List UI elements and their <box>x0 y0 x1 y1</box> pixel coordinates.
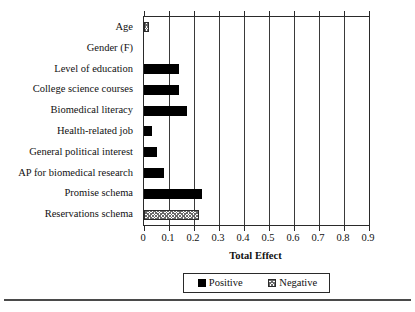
category-label: Biomedical literacy <box>0 104 133 115</box>
bar-row <box>144 59 369 80</box>
bar[interactable] <box>144 147 157 157</box>
bar-row <box>144 183 369 204</box>
x-axis-tick-labels: 00.10.20.30.40.50.60.70.80.9 <box>143 232 368 246</box>
x-tick-label: 0.3 <box>211 232 224 244</box>
chart-legend: PositiveNegative <box>183 273 330 293</box>
x-tick-label: 0.9 <box>361 232 374 244</box>
chart-figure: AgeGender (F)Level of educationCollege s… <box>0 0 415 312</box>
axis-tick-bottom <box>144 225 145 231</box>
axis-tick-bottom <box>169 225 170 231</box>
bar[interactable] <box>144 64 179 74</box>
legend-swatch-positive-icon <box>198 279 206 287</box>
legend-label: Positive <box>209 277 243 289</box>
bar-row <box>144 38 369 59</box>
axis-tick-bottom <box>344 225 345 231</box>
bar-row <box>144 163 369 184</box>
category-label: AP for biomedical research <box>0 167 133 178</box>
bar[interactable] <box>144 106 187 116</box>
axis-tick-bottom <box>369 225 370 231</box>
x-tick-label: 0.4 <box>236 232 249 244</box>
axis-tick-bottom <box>269 225 270 231</box>
bar[interactable] <box>144 126 152 136</box>
legend-entry[interactable]: Negative <box>257 277 330 289</box>
plot-area <box>143 16 370 226</box>
axis-tick-bottom <box>194 225 195 231</box>
x-tick-label: 0.1 <box>161 232 174 244</box>
category-label: General political interest <box>0 146 133 157</box>
x-tick-label: 0.5 <box>261 232 274 244</box>
category-label: College science courses <box>0 83 133 94</box>
bar[interactable] <box>144 189 202 199</box>
x-tick-label: 0.6 <box>286 232 299 244</box>
axis-tick-bottom <box>244 225 245 231</box>
bar-row <box>144 79 369 100</box>
bar-row <box>144 17 369 38</box>
x-tick-label: 0.8 <box>336 232 349 244</box>
category-label: Promise schema <box>0 187 133 198</box>
x-tick-label: 0.2 <box>186 232 199 244</box>
legend-entry[interactable]: Positive <box>184 277 257 289</box>
bar-row <box>144 121 369 142</box>
category-label: Age <box>0 21 133 32</box>
bar-row <box>144 100 369 121</box>
category-label: Health-related job <box>0 125 133 136</box>
bar-row <box>144 142 369 163</box>
axis-tick-bottom <box>319 225 320 231</box>
bar[interactable] <box>144 210 199 220</box>
legend-swatch-negative-icon <box>268 279 276 287</box>
category-axis-labels: AgeGender (F)Level of educationCollege s… <box>0 16 138 224</box>
bar-row <box>144 204 369 225</box>
axis-tick-bottom <box>294 225 295 231</box>
bar[interactable] <box>144 85 179 95</box>
category-label: Level of education <box>0 63 133 74</box>
x-axis-title: Total Effect <box>143 250 368 261</box>
axis-tick-bottom <box>219 225 220 231</box>
bar[interactable] <box>144 168 164 178</box>
category-label: Reservations schema <box>0 208 133 219</box>
x-tick-label: 0.7 <box>311 232 324 244</box>
x-tick-label: 0 <box>140 232 145 244</box>
category-label: Gender (F) <box>0 42 133 53</box>
bar[interactable] <box>144 22 149 32</box>
footer-divider <box>4 299 411 301</box>
legend-label: Negative <box>279 277 317 289</box>
